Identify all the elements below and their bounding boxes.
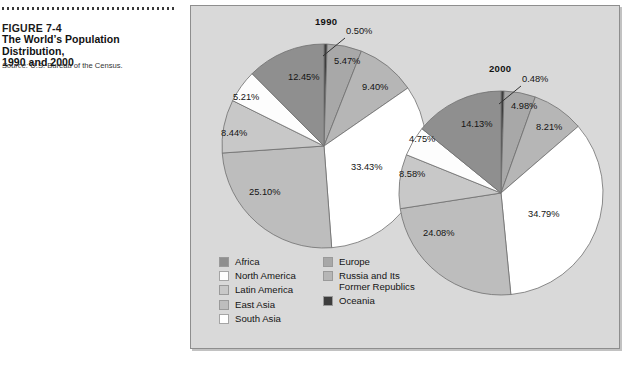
legend-item-label: Russia and ItsFormer Republics [339, 270, 415, 292]
pie-2000-label-latin-america: 8.58% [399, 169, 425, 179]
figure-source: Source: U.S. Bureau of the Census. [2, 61, 182, 71]
pie-2000-label-russia: 8.21% [536, 122, 562, 132]
legend-swatch-icon [219, 257, 229, 267]
pie-1990-label-east-asia: 25.10% [249, 187, 281, 197]
legend-item-label: South Asia [235, 313, 281, 324]
figure-root: FIGURE 7-4 The World’s Population Distri… [0, 0, 638, 373]
legend-swatch-icon [323, 271, 333, 281]
legend-item-label: Latin America [235, 284, 293, 295]
pie-2000-label-north-america: 4.75% [409, 134, 435, 144]
legend-swatch-icon [323, 257, 333, 267]
legend-item[interactable]: Europe [323, 256, 415, 267]
pie-2000-label-south-asia: 34.79% [528, 209, 560, 219]
pie-1990-label-europe: 5.47% [334, 56, 360, 66]
legend-swatch-icon [219, 285, 229, 295]
legend-swatch-icon [219, 300, 229, 310]
pie-slice[interactable] [400, 193, 511, 295]
legend-column-secondary: EuropeRussia and ItsFormer RepublicsOcea… [323, 256, 415, 310]
legend-item[interactable]: Latin America [219, 284, 296, 295]
figure-source-label: Source: [2, 61, 28, 70]
legend-item[interactable]: East Asia [219, 299, 296, 310]
pie-2000-label-east-asia: 24.08% [423, 228, 455, 238]
legend-item-label: North America [235, 270, 296, 281]
figure-source-text: U.S. Bureau of the Census. [28, 61, 123, 70]
chart-panel: 1990 0.50% 5.47% 9.40% 33.43% 25.10% 8.4… [190, 5, 620, 349]
figure-caption-block: FIGURE 7-4 The World’s Population Distri… [0, 0, 186, 373]
legend-item-label: Africa [235, 256, 260, 267]
pie-2000-title: 2000 [489, 63, 511, 74]
legend-item[interactable]: Africa [219, 256, 296, 267]
pie-1990-label-russia: 9.40% [362, 82, 388, 92]
pie-2000-label-europe: 4.98% [511, 101, 537, 111]
pie-2000-label-oceania: 0.48% [522, 74, 548, 84]
dotted-rule-divider [2, 7, 176, 10]
legend-item[interactable]: Oceania [323, 295, 415, 306]
pie-1990-label-oceania: 0.50% [346, 26, 372, 36]
legend-item-label: Europe [339, 256, 370, 267]
legend-column-primary: AfricaNorth AmericaLatin AmericaEast Asi… [219, 256, 296, 327]
pie-1990-label-south-asia: 33.43% [351, 162, 383, 172]
pie-1990-label-latin-america: 8.44% [221, 128, 247, 138]
chart-panel-inner: 1990 0.50% 5.47% 9.40% 33.43% 25.10% 8.4… [191, 6, 619, 348]
legend-item[interactable]: South Asia [219, 313, 296, 324]
pie-1990-label-north-america: 5.21% [233, 92, 259, 102]
pie-1990-title: 1990 [315, 16, 337, 27]
pie-1990-label-africa: 12.45% [288, 72, 320, 82]
pie-2000-svg [396, 88, 606, 298]
legend-item-label: East Asia [235, 299, 275, 310]
legend-item-label: Oceania [339, 295, 375, 306]
legend-swatch-icon [219, 271, 229, 281]
pie-1990-oceania-leader-line [321, 34, 363, 58]
legend-item[interactable]: Russia and ItsFormer Republics [323, 270, 415, 292]
legend-item[interactable]: North America [219, 270, 296, 281]
legend-swatch-icon [219, 314, 229, 324]
pie-2000-label-africa: 14.13% [461, 119, 493, 129]
figure-title-line-1: The World’s Population Distribution, [2, 33, 120, 57]
pie-chart-2000 [396, 88, 606, 298]
legend-swatch-icon [323, 296, 333, 306]
